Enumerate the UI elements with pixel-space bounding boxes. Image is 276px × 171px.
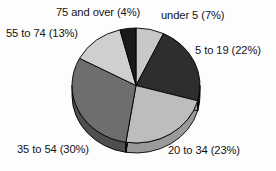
slice-label-under-5: under 5 (7%): [161, 9, 224, 21]
pie-top-face-slices: [72, 28, 200, 143]
slice-label-35-to-54: 35 to 54 (30%): [17, 143, 89, 155]
slice-label-75-and-over: 75 and over (4%): [56, 6, 140, 18]
slice-label-20-to-34: 20 to 34 (23%): [168, 144, 240, 156]
slice-label-5-to-19: 5 to 19 (22%): [195, 44, 261, 56]
pie-chart: 75 and over (4%) under 5 (7%) 55 to 74 (…: [0, 0, 276, 171]
slice-label-55-to-74: 55 to 74 (13%): [6, 27, 78, 39]
